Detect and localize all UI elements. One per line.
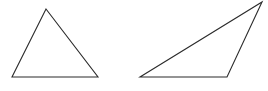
triangles-figure [0, 0, 268, 91]
